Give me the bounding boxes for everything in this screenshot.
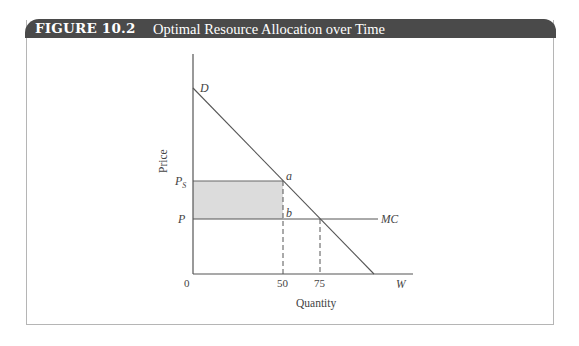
label-ps: PS bbox=[174, 174, 186, 190]
tick-50: 50 bbox=[277, 277, 289, 289]
label-p: P bbox=[177, 212, 186, 226]
tick-75: 75 bbox=[314, 277, 326, 289]
tick-zero: 0 bbox=[184, 277, 190, 289]
x-axis-label: Quantity bbox=[296, 297, 336, 310]
label-a: a bbox=[286, 169, 292, 183]
chart-plot: D PS P MC a b 0 50 75 W Quantity Price bbox=[0, 0, 579, 346]
scarcity-rent-area bbox=[193, 181, 283, 219]
label-b: b bbox=[286, 206, 292, 220]
tick-w: W bbox=[396, 278, 407, 290]
y-axis-label: Price bbox=[157, 149, 169, 173]
label-d: D bbox=[199, 81, 209, 95]
label-mc: MC bbox=[380, 213, 399, 225]
